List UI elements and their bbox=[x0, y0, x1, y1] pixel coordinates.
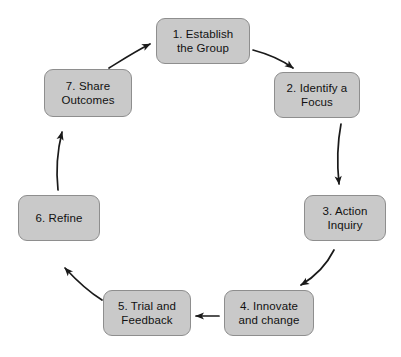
node-step-1-label: 1. Establish the Group bbox=[169, 27, 238, 56]
arrow-5-to-6 bbox=[65, 268, 102, 300]
node-step-5[interactable]: 5. Trial and Feedback bbox=[103, 290, 191, 336]
node-step-3-label: 3. Action Inquiry bbox=[318, 204, 371, 233]
node-step-6-label: 6. Refine bbox=[32, 211, 87, 226]
node-step-1[interactable]: 1. Establish the Group bbox=[156, 18, 250, 64]
cycle-diagram: 1. Establish the Group 2. Identify a Foc… bbox=[0, 0, 401, 357]
node-step-5-label: 5. Trial and Feedback bbox=[114, 299, 180, 328]
node-step-4-label: 4. Innovate and change bbox=[234, 299, 303, 328]
arrow-1-to-2 bbox=[253, 50, 293, 68]
node-step-2[interactable]: 2. Identify a Focus bbox=[274, 72, 360, 118]
node-step-7-label: 7. Share Outcomes bbox=[57, 79, 118, 108]
arrow-2-to-3 bbox=[338, 124, 341, 184]
node-step-4[interactable]: 4. Innovate and change bbox=[224, 290, 314, 336]
arrow-7-to-1 bbox=[109, 44, 150, 68]
node-step-3[interactable]: 3. Action Inquiry bbox=[304, 195, 386, 241]
node-step-6[interactable]: 6. Refine bbox=[18, 195, 100, 241]
arrow-3-to-4 bbox=[301, 250, 334, 285]
node-step-2-label: 2. Identify a Focus bbox=[283, 81, 352, 110]
arrow-6-to-7 bbox=[57, 132, 62, 190]
node-step-7[interactable]: 7. Share Outcomes bbox=[44, 69, 132, 117]
